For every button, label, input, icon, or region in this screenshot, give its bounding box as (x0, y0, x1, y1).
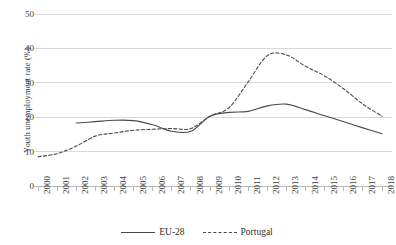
x-axis-tick-label: 2017 (367, 176, 377, 194)
x-axis-tick-label: 2016 (348, 176, 358, 194)
x-axis-tick-label: 2014 (310, 176, 320, 194)
x-axis-tick-label: 2005 (138, 176, 148, 194)
legend-label: Portugal (241, 228, 273, 238)
x-axis-tick-label: 2003 (99, 176, 109, 194)
x-axis-tick-label: 2002 (80, 176, 90, 194)
series-line-portugal (38, 53, 382, 157)
legend-item-eu-28[interactable]: EU-28 (121, 228, 184, 238)
x-axis-tick-label: 2008 (195, 176, 205, 194)
x-axis-tick-label: 2018 (386, 176, 396, 194)
legend-label: EU-28 (159, 228, 184, 238)
series-line-eu-28 (76, 104, 382, 134)
x-axis-tick-label: 2006 (157, 176, 167, 194)
x-axis-tick-label: 2007 (176, 176, 186, 194)
x-axis-tick-label: 2000 (42, 176, 52, 194)
x-axis-tick-label: 2009 (214, 176, 224, 194)
x-axis-tick-label: 2010 (233, 176, 243, 194)
x-axis-tick-label: 2013 (290, 176, 300, 194)
x-axis-tick-label: 2011 (252, 176, 262, 194)
chart-legend: EU-28Portugal (0, 228, 394, 238)
legend-swatch-dashed-line-icon (203, 232, 237, 233)
legend-item-portugal[interactable]: Portugal (203, 228, 273, 238)
x-axis-tick-label: 2012 (271, 176, 281, 194)
x-axis-tick-label: 2004 (118, 176, 128, 194)
legend-swatch-solid-line-icon (121, 232, 155, 233)
x-axis-tick-label: 2001 (61, 176, 71, 194)
x-axis-tick-label: 2015 (329, 176, 339, 194)
